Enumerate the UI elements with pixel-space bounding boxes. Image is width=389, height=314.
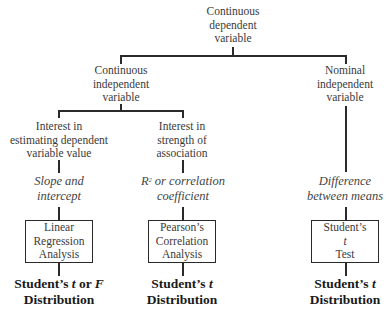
r2-rest: or correlation — [152, 174, 225, 188]
root-line-1: Continuous — [193, 5, 273, 19]
estimating-line-1: Interest in — [3, 120, 115, 134]
linear-line-3: Analysis — [33, 248, 84, 262]
connector-root-horizontal — [120, 55, 346, 57]
nominal-line-1: Nominal — [300, 64, 389, 78]
pearson-line-2: Correlation — [156, 235, 208, 249]
continuous-independent-line-1: Continuous — [75, 64, 167, 78]
node-nominal-independent-variable: Nominal independent variable — [300, 64, 389, 105]
node-interest-estimating: Interest in estimating dependent variabl… — [3, 120, 115, 161]
pearson-line-3: Analysis — [156, 248, 208, 262]
distribution-1-prefix: Student’s — [14, 276, 72, 291]
node-interest-strength: Interest in strength of association — [137, 120, 227, 161]
box-students-t-test: Student’s t Test — [311, 220, 379, 263]
node-student-t-or-f-distribution: Student’s t or F Distribution — [3, 276, 115, 308]
linear-line-2: Regression — [33, 235, 84, 249]
distribution-1-f: F — [95, 276, 104, 291]
box-linear-regression-analysis: Linear Regression Analysis — [25, 220, 93, 263]
connector-ttest-to-distribution — [345, 263, 347, 276]
nominal-line-3: variable — [300, 91, 389, 105]
estimating-line-2: estimating dependent — [3, 134, 115, 148]
distribution-2-prefix: Student’s — [151, 276, 209, 291]
node-r2-or-correlation-coefficient: R2 or correlation coefficient — [122, 174, 244, 204]
distribution-2-t: t — [209, 276, 213, 291]
connector-r2-to-box — [182, 207, 184, 221]
difference-line-1: Difference — [293, 174, 389, 189]
difference-line-2: between means — [293, 189, 389, 204]
connector-estimating-to-slope — [58, 160, 60, 173]
distribution-1-line-2: Distribution — [3, 292, 115, 308]
distribution-3-line-2: Distribution — [295, 292, 389, 308]
distribution-1-or: or — [76, 276, 95, 291]
ttest-line-2: t — [324, 235, 367, 249]
connector-continuous-horizontal — [58, 110, 183, 112]
strength-line-3: association — [137, 147, 227, 161]
connector-slope-to-box — [58, 207, 60, 221]
root-node-continuous-dependent-variable: Continuous dependent variable — [193, 5, 273, 46]
connector-to-strength — [182, 110, 184, 118]
nominal-line-2: independent — [300, 78, 389, 92]
box-pearsons-correlation-analysis: Pearson’s Correlation Analysis — [148, 220, 216, 263]
r-superscript: 2 — [149, 177, 152, 183]
node-continuous-independent-variable: Continuous independent variable — [75, 64, 167, 105]
slope-line-2: intercept — [13, 189, 105, 204]
distribution-3-line-1: Student’s t — [295, 276, 389, 292]
slope-line-1: Slope and — [13, 174, 105, 189]
strength-line-2: strength of — [137, 134, 227, 148]
connector-to-estimating — [58, 110, 60, 118]
distribution-2-line-2: Distribution — [132, 292, 232, 308]
node-student-t-distribution-middle: Student’s t Distribution — [132, 276, 232, 308]
strength-line-1: Interest in — [137, 120, 227, 134]
connector-pearson-to-distribution — [182, 263, 184, 276]
r2-line-2: coefficient — [122, 189, 244, 204]
root-line-3: variable — [193, 32, 273, 46]
connector-linear-to-distribution — [58, 263, 60, 276]
pearson-line-1: Pearson’s — [156, 221, 208, 235]
distribution-1-line-1: Student’s t or F — [3, 276, 115, 292]
connector-to-nominal — [345, 55, 347, 64]
continuous-independent-line-3: variable — [75, 91, 167, 105]
ttest-line-3: Test — [324, 248, 367, 262]
node-slope-and-intercept: Slope and intercept — [13, 174, 105, 204]
distribution-2-line-1: Student’s t — [132, 276, 232, 292]
continuous-independent-line-2: independent — [75, 78, 167, 92]
distribution-3-prefix: Student’s — [314, 276, 372, 291]
connector-difference-to-box — [345, 207, 347, 221]
connector-nominal-down — [345, 106, 347, 172]
node-difference-between-means: Difference between means — [293, 174, 389, 204]
connector-to-continuous — [120, 55, 122, 64]
root-line-2: dependent — [193, 19, 273, 33]
estimating-line-3: variable value — [3, 147, 115, 161]
r-symbol: R — [141, 174, 149, 188]
distribution-3-t: t — [372, 276, 376, 291]
connector-strength-to-r2 — [182, 160, 184, 173]
node-student-t-distribution-right: Student’s t Distribution — [295, 276, 389, 308]
ttest-line-1: Student’s — [324, 221, 367, 235]
r2-line-1: R2 or correlation — [122, 174, 244, 189]
linear-line-1: Linear — [33, 221, 84, 235]
